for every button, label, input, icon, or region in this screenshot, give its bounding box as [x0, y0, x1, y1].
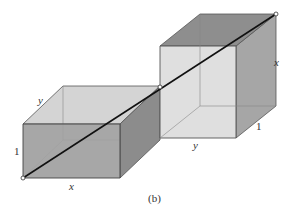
right-box-height-label: x — [273, 56, 279, 68]
left-box-height-label: 1 — [14, 145, 20, 157]
left-box-depth-label: y — [37, 94, 43, 106]
endpoint-bottom-left — [21, 176, 25, 180]
two-boxes-diagram: y 1 x x 1 y (b) — [0, 0, 289, 217]
left-box-front-face — [23, 124, 120, 178]
left-box-width-label: x — [68, 180, 74, 192]
junction-point — [158, 85, 162, 89]
figure-caption: (b) — [148, 192, 161, 205]
endpoint-top-right — [274, 12, 278, 16]
right-box-front-face — [160, 46, 236, 138]
right-box-width-label: y — [192, 139, 198, 151]
right-box-depth-label: 1 — [256, 120, 262, 132]
